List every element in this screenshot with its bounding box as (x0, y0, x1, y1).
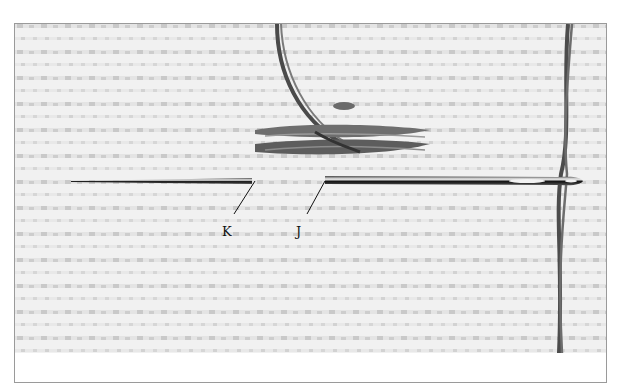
label-j: J (296, 224, 301, 239)
needle-eye (509, 179, 545, 183)
fabric-illustration (15, 24, 606, 353)
stitch-small (333, 102, 355, 110)
photo-frame (14, 23, 607, 383)
aida-fabric-photo (15, 24, 606, 353)
label-k: K (222, 224, 232, 239)
fabric-weave (15, 24, 606, 353)
